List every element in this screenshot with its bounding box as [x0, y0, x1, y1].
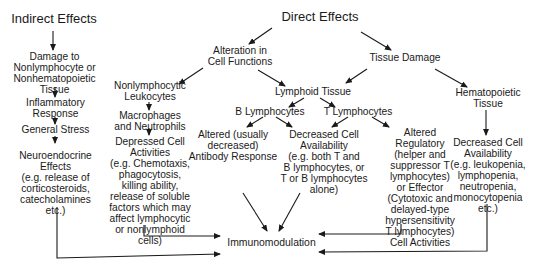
direct-effects-title: Direct Effects — [265, 10, 375, 24]
b-lymphocytes-node: B Lymphocytes — [230, 106, 310, 117]
general-stress-node: General Stress — [8, 124, 103, 135]
hematopoietic-tissue-node: Hematopoietic Tissue — [448, 87, 528, 109]
nonlymphocytic-leukocytes-node: Nonlymphocytic Leukocytes — [104, 80, 196, 102]
lymphoid-tissue-node: Lymphoid Tissue — [268, 86, 358, 97]
damage-to-tissue-node: Damage to Nonlymphocyte or Nonhematopoie… — [2, 51, 107, 95]
tissue-damage-node: Tissue Damage — [365, 52, 445, 63]
decreased-cell-availability-hematopoietic-node: Decreased Cell Availability (e.g. leukop… — [436, 137, 540, 214]
decreased-lymphocyte-availability-node: Decreased Cell Availability (e.g. both T… — [270, 129, 378, 195]
immunomodulation-node: Immunomodulation — [219, 237, 324, 248]
neuroendocrine-effects-node: Neuroendocrine Effects (e.g. release of … — [4, 150, 107, 216]
alteration-in-cell-functions-node: Alteration in Cell Functions — [190, 45, 290, 67]
inflammatory-response-node: Inflammatory Response — [8, 97, 103, 119]
t-lymphocytes-node: T Lymphocytes — [318, 106, 398, 117]
indirect-effects-title: Indirect Effects — [8, 12, 100, 26]
altered-antibody-response-node: Altered (usually decreased) Antibody Res… — [183, 129, 283, 162]
